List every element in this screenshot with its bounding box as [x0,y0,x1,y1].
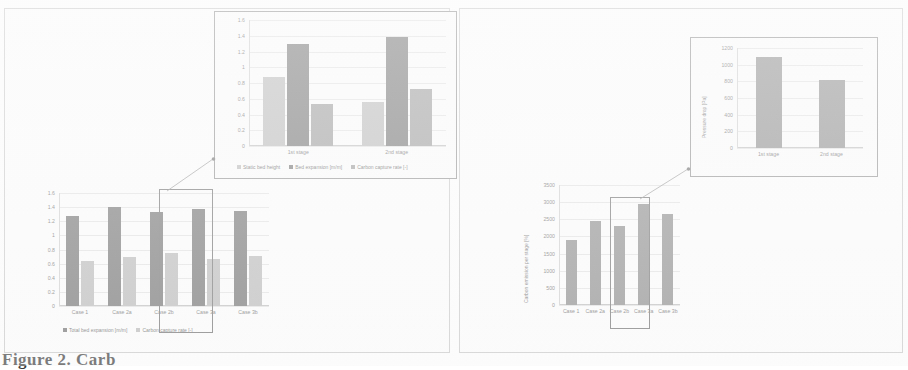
left-figure-panel: 1.61.41.210.80.60.40.20 Case 1Case 2aCas… [4,8,450,353]
right-figure-panel: 3500300025002000150010005000 Case 1Case … [459,8,903,353]
callout-leader-line [5,9,451,354]
callout-leader-line [460,9,904,354]
figure-caption: Figure 2. Carb [2,350,116,370]
